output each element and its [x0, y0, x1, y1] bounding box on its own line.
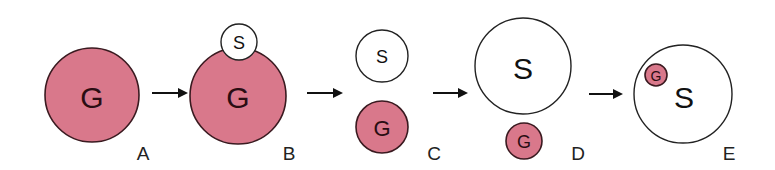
stage-label-d: D	[571, 143, 585, 164]
stage-label-b: B	[283, 143, 296, 164]
g-label: G	[226, 81, 249, 114]
g-label: G	[80, 81, 103, 114]
stage-b: G S B	[190, 24, 295, 164]
stage-c: S G C	[356, 30, 441, 164]
s-label: S	[233, 33, 245, 53]
g-label: G	[651, 68, 662, 84]
s-label: S	[674, 81, 694, 114]
progression-diagram: G A G S B S G C S G D S G E	[0, 0, 775, 170]
stage-label-c: C	[427, 143, 441, 164]
g-label: G	[373, 116, 390, 141]
stage-e: S G E	[634, 45, 735, 164]
stage-a: G A	[45, 48, 150, 164]
g-label: G	[517, 132, 531, 152]
s-label: S	[513, 52, 533, 85]
stage-label-e: E	[723, 143, 736, 164]
s-label: S	[376, 47, 388, 67]
stage-label-a: A	[137, 143, 150, 164]
stage-d: S G D	[475, 18, 585, 164]
